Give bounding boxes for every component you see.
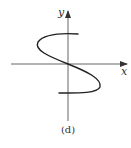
x-axis-label: x [121,65,128,78]
s-curve [37,34,100,93]
figure-caption: (d) [61,124,75,135]
graph-figure: y x (d) [0,0,131,148]
y-axis-label: y [57,6,65,19]
